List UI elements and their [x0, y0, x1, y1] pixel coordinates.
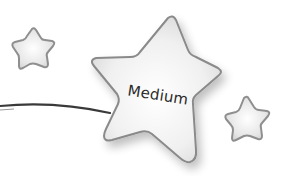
star-rating-graphic: Medium	[0, 0, 286, 176]
connector-line	[0, 104, 110, 113]
small-star-top-left-icon	[12, 28, 54, 68]
connector-line-faint	[0, 109, 14, 110]
small-star-right-icon	[225, 97, 269, 141]
